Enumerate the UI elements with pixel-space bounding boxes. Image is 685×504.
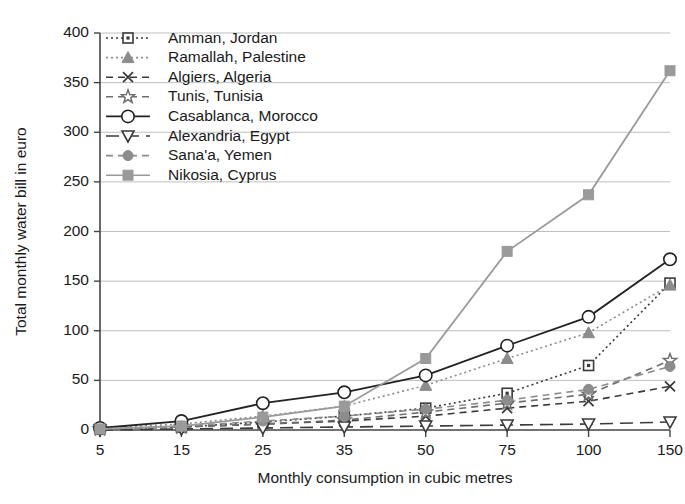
x-axis-title: Monthly consumption in cubic metres <box>257 469 512 486</box>
marker-open-circle <box>582 311 594 323</box>
x-tick-label: 150 <box>657 441 683 458</box>
legend-label: Nikosia, Cyprus <box>168 166 277 183</box>
x-tick-label: 25 <box>254 441 271 458</box>
x-tick-label: 100 <box>576 441 602 458</box>
legend-item[interactable]: Casablanca, Morocco <box>106 107 318 124</box>
marker-filled-square <box>665 66 675 76</box>
line-chart: 0501001502002503003504005152535507510015… <box>0 0 685 504</box>
marker-filled-triangle <box>501 353 513 364</box>
gridlines <box>100 33 670 380</box>
legend-label: Amman, Jordan <box>168 29 277 46</box>
marker-filled-circle <box>665 361 675 371</box>
marker-open-circle <box>420 369 432 381</box>
marker-filled-square <box>95 424 105 434</box>
legend-label: Tunis, Tunisia <box>168 87 263 104</box>
marker-filled-circle <box>123 151 133 161</box>
legend-label: Alexandria, Egypt <box>168 127 290 144</box>
y-tick-label: 200 <box>63 222 89 239</box>
marker-filled-square <box>584 190 594 200</box>
series-ramallah-palestine <box>94 279 676 433</box>
y-tick-label: 350 <box>63 73 89 90</box>
chart-container: 0501001502002503003504005152535507510015… <box>0 0 685 504</box>
marker-open-circle <box>501 339 513 351</box>
marker-open-star <box>121 90 134 103</box>
legend-item[interactable]: Amman, Jordan <box>106 29 277 46</box>
series-line <box>100 259 670 428</box>
y-tick-label: 400 <box>63 23 89 40</box>
legend-label: Algiers, Algeria <box>168 68 272 85</box>
y-axis-ticks: 050100150200250300350400 <box>63 23 100 437</box>
y-tick-label: 150 <box>63 271 89 288</box>
legend-label: Ramallah, Palestine <box>168 48 306 65</box>
marker-filled-square <box>258 412 268 422</box>
series-line <box>100 71 670 429</box>
marker-open-circle <box>257 397 269 409</box>
marker-open-circle <box>664 253 676 265</box>
marker-open-circle <box>122 110 134 122</box>
legend-item[interactable]: Tunis, Tunisia <box>106 87 263 104</box>
marker-open-circle <box>338 386 350 398</box>
x-tick-label: 50 <box>417 441 435 458</box>
legend-item[interactable]: Ramallah, Palestine <box>106 48 306 65</box>
series-line <box>100 285 670 428</box>
marker-filled-square <box>421 354 431 364</box>
y-tick-label: 300 <box>63 122 89 139</box>
marker-open-square <box>584 360 594 370</box>
legend-label: Casablanca, Morocco <box>168 107 318 124</box>
x-tick-label: 5 <box>96 441 105 458</box>
marker-filled-circle <box>584 384 594 394</box>
x-tick-label: 35 <box>336 441 353 458</box>
y-axis-title: Total monthly water bill in euro <box>12 127 29 336</box>
marker-filled-circle <box>339 411 349 421</box>
x-tick-label: 15 <box>173 441 190 458</box>
legend: Amman, JordanRamallah, PalestineAlgiers,… <box>106 29 318 183</box>
legend-item[interactable]: Alexandria, Egypt <box>106 127 290 144</box>
legend-item[interactable]: Sana'a, Yemen <box>106 146 272 163</box>
series-amman-jordan <box>95 278 675 434</box>
series-casablanca-morocco <box>94 253 676 434</box>
x-tick-label: 75 <box>499 441 516 458</box>
x-axis-ticks: 51525355075100150 <box>96 430 684 458</box>
marker-filled-circle <box>502 395 512 405</box>
marker-filled-triangle <box>583 327 595 338</box>
series-line <box>100 283 670 429</box>
marker-filled-circle <box>421 404 431 414</box>
marker-filled-square <box>502 246 512 256</box>
legend-label: Sana'a, Yemen <box>168 146 272 163</box>
y-tick-label: 250 <box>63 172 89 189</box>
marker-filled-square <box>123 170 133 180</box>
y-tick-label: 50 <box>72 370 90 387</box>
marker-filled-square <box>339 401 349 411</box>
legend-item[interactable]: Nikosia, Cyprus <box>106 166 277 183</box>
marker-open-square <box>123 33 133 43</box>
marker-filled-square <box>176 421 186 431</box>
y-tick-label: 0 <box>80 420 89 437</box>
y-tick-label: 100 <box>63 321 89 338</box>
